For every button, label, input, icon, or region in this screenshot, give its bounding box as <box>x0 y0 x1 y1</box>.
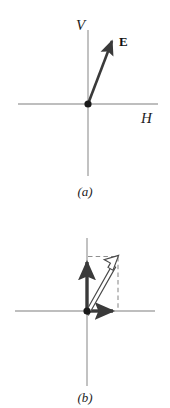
panel-caption-b: (b) <box>77 390 92 405</box>
field-vector-e <box>88 41 112 104</box>
vector-figure: V H E (a) <box>0 0 170 408</box>
horizontal-axis-label-a: H <box>140 110 153 126</box>
resultant-vector-outline <box>85 255 119 315</box>
panel-a: V H E (a) <box>0 0 170 204</box>
vector-label-e: E <box>119 34 128 49</box>
origin-dot-b <box>83 307 90 314</box>
origin-dot-a <box>84 100 91 107</box>
panel-b: (b) <box>0 204 170 408</box>
vertical-axis-label-a: V <box>76 17 87 33</box>
panel-caption-a: (a) <box>77 184 92 199</box>
